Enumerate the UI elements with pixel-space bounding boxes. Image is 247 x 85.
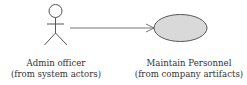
use-case-label: Maintain Personnel (from company artifac… [128,58,247,80]
use-case-ellipse [154,15,207,42]
association-arrow [70,24,154,32]
use-case-name: Maintain Personnel [128,58,247,69]
actor-source-note: (from system actors) [0,69,112,80]
actor-left-leg [45,33,56,45]
actor-label: Admin officer (from system actors) [0,58,112,80]
actor-head [49,5,62,18]
use-case-source-note: (from company artifacts) [128,69,247,80]
actor-name: Admin officer [0,58,112,69]
actor-stick-figure-icon [45,5,68,46]
actor-right-leg [56,33,68,45]
